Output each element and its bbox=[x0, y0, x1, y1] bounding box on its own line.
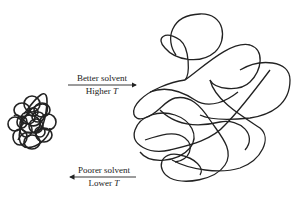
temperature-symbol: T bbox=[114, 178, 119, 188]
polymer-coil-diagram bbox=[0, 0, 302, 199]
reverse-arrow-bottom-label: Lower T bbox=[64, 178, 144, 188]
forward-condition-text: Higher bbox=[86, 86, 113, 96]
forward-arrow-top-label: Better solvent bbox=[62, 73, 142, 83]
compact-coil bbox=[8, 94, 56, 149]
forward-arrow-bottom-label: Higher T bbox=[62, 86, 142, 96]
expanded-coil bbox=[134, 14, 290, 181]
temperature-symbol: T bbox=[113, 86, 118, 96]
reverse-condition-text: Lower bbox=[89, 178, 115, 188]
reverse-arrow-top-label: Poorer solvent bbox=[64, 165, 144, 175]
